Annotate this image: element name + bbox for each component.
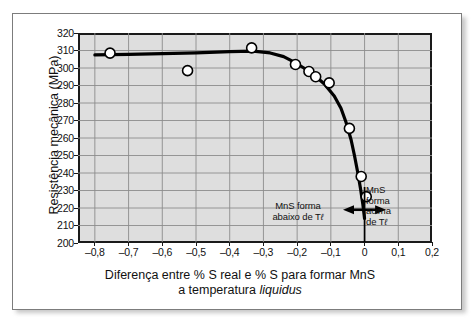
x-tick-label: 0,2 — [412, 246, 452, 258]
annotation-right-line1: MnS — [366, 184, 385, 195]
y-tick-label: 300 — [40, 63, 74, 73]
y-tick-label: 280 — [40, 98, 74, 108]
annotation-right-region: MnS forma acima de Tℓ — [366, 185, 414, 227]
x-tick-mark — [330, 242, 331, 246]
x-tick-mark — [162, 242, 163, 246]
y-axis-tick-labels: 200210220230240250260270280290300310320 — [38, 33, 74, 243]
y-tick-label: 320 — [40, 28, 74, 38]
x-tick-mark — [297, 242, 298, 246]
y-tick-label: 210 — [40, 220, 74, 230]
x-axis-title-line1: Diferença entre % S real e % S para form… — [105, 268, 375, 282]
region-arrow-head-left — [343, 205, 354, 214]
y-tick-label: 220 — [40, 203, 74, 213]
x-axis-tick-labels: –0,8–0,7–0,6–0,5–0,4–0,3–0,2–0,100,10,2 — [78, 246, 432, 262]
annotation-right-line3: acima — [366, 205, 391, 216]
annotation-right-line4: de T — [366, 216, 384, 227]
x-tick-mark — [128, 242, 129, 246]
y-tick-label: 250 — [40, 150, 74, 160]
y-tick-label: 200 — [40, 238, 74, 248]
y-tick-label: 260 — [40, 133, 74, 143]
annotation-right-subscript: ℓ — [384, 217, 387, 227]
annotation-left-line2: abaixo de T — [272, 211, 320, 222]
y-tick-label: 230 — [40, 185, 74, 195]
annotation-left-region: MnS forma abaixo de Tℓ — [258, 201, 338, 222]
x-tick-mark — [94, 242, 95, 246]
annotation-left-line1: MnS forma — [275, 200, 321, 211]
x-tick-mark — [229, 242, 230, 246]
x-tick-mark — [364, 242, 365, 246]
y-tick-label: 270 — [40, 115, 74, 125]
figure-container: Resistência mecânica (MPa) 2002102202302… — [0, 0, 475, 325]
x-tick-mark — [398, 242, 399, 246]
y-tick-label: 240 — [40, 168, 74, 178]
x-axis-title-line2: a temperatura — [178, 283, 259, 297]
x-tick-mark — [196, 242, 197, 246]
plot-area: MnS forma abaixo de Tℓ MnS forma acima d… — [78, 33, 432, 243]
x-axis-title: Diferença entre % S real e % S para form… — [50, 268, 430, 298]
y-tick-label: 310 — [40, 45, 74, 55]
annotation-left-subscript: ℓ — [321, 212, 324, 222]
x-axis-title-emphasis: liquidus — [259, 283, 301, 297]
annotation-right-line2: forma — [366, 195, 390, 206]
x-tick-mark — [432, 242, 433, 246]
x-tick-mark — [263, 242, 264, 246]
y-tick-label: 290 — [40, 80, 74, 90]
